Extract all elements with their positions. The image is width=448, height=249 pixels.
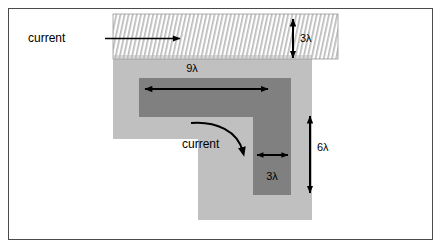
current-bend-label: current [182, 137, 220, 151]
dim-vertical-arm-width-label: 3λ [266, 170, 278, 182]
figure-root: current 3λ 9λ current 3λ 6λ [0, 0, 448, 249]
diagram-canvas: current 3λ 9λ current 3λ 6λ [0, 0, 448, 249]
current-top-label: current [28, 31, 66, 45]
dim-horizontal-arm-label: 9λ [186, 62, 198, 74]
dim-top-strip-label: 3λ [300, 32, 312, 44]
dim-vertical-arm-length-label: 6λ [317, 141, 329, 153]
hatched-band-overlap [113, 55, 312, 59]
